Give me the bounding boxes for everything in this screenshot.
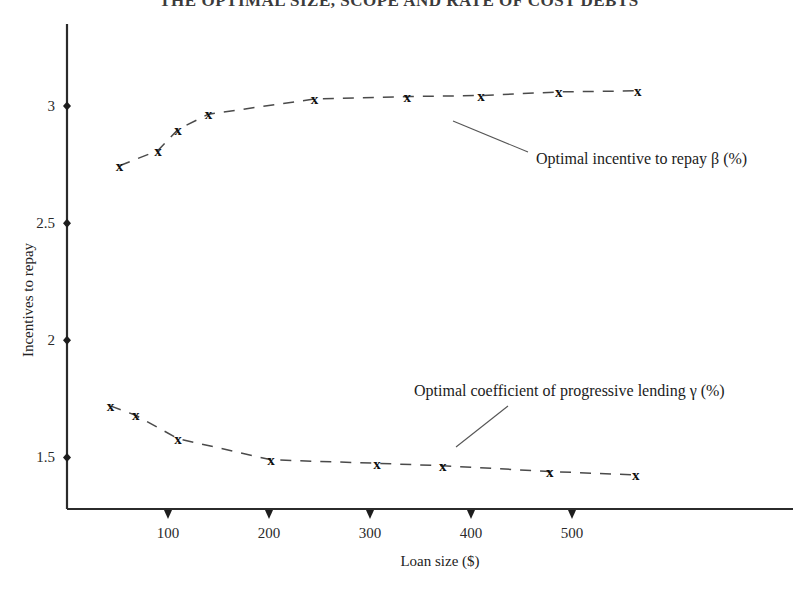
x-tick-mark bbox=[366, 510, 374, 519]
y-tick-label: 2.5 bbox=[36, 215, 55, 231]
data-point-marker: x bbox=[107, 398, 115, 414]
data-series-layer: xxxxxxxxxxxxxxxxx bbox=[107, 83, 642, 483]
data-point-marker: x bbox=[555, 84, 563, 100]
x-tick-mark bbox=[568, 510, 576, 519]
x-tick-mark bbox=[164, 510, 172, 519]
y-tick-mark bbox=[63, 453, 71, 462]
x-tick-label: 400 bbox=[460, 525, 483, 541]
data-point-marker: x bbox=[267, 452, 275, 468]
data-point-marker: x bbox=[439, 458, 447, 474]
x-axis-title: Loan size ($) bbox=[400, 553, 479, 570]
data-point-marker: x bbox=[116, 158, 124, 174]
y-tick-label: 2 bbox=[48, 332, 56, 348]
chart-plot-area: 100200300400500 1.522.53 Loan size ($) I… bbox=[0, 0, 798, 593]
data-point-marker: x bbox=[373, 456, 381, 472]
annotation-layer: Optimal incentive to repay β (%)Optimal … bbox=[414, 121, 747, 447]
data-point-marker: x bbox=[477, 88, 485, 104]
series-annotation-label: Optimal coefficient of progressive lendi… bbox=[414, 382, 725, 400]
data-point-marker: x bbox=[634, 83, 642, 99]
x-tick-mark bbox=[467, 510, 475, 519]
data-point-marker: x bbox=[132, 407, 140, 423]
y-tick-label: 3 bbox=[48, 98, 56, 114]
y-tick-mark bbox=[63, 102, 71, 111]
x-tick-label: 300 bbox=[359, 525, 382, 541]
y-axis-title: Incentives to repay bbox=[20, 242, 36, 357]
data-point-marker: x bbox=[404, 89, 412, 105]
data-point-marker: x bbox=[632, 467, 640, 483]
annotation-leader-line bbox=[453, 121, 528, 152]
y-tick-label: 1.5 bbox=[36, 449, 55, 465]
x-axis-ticks: 100200300400500 bbox=[157, 510, 584, 541]
annotation-leader-line bbox=[456, 406, 508, 447]
y-tick-mark bbox=[63, 219, 71, 228]
data-series: xxxxxxxx bbox=[107, 398, 640, 483]
data-point-marker: x bbox=[311, 91, 319, 107]
data-point-marker: x bbox=[174, 431, 182, 447]
x-tick-mark bbox=[265, 510, 273, 519]
y-axis-ticks: 1.522.53 bbox=[36, 98, 71, 465]
y-tick-mark bbox=[63, 336, 71, 345]
data-point-marker: x bbox=[174, 122, 182, 138]
data-point-marker: x bbox=[154, 143, 162, 159]
x-tick-label: 200 bbox=[258, 525, 281, 541]
data-point-marker: x bbox=[546, 464, 554, 480]
chart-figure: THE OPTIMAL SIZE, SCOPE AND RATE OF COST… bbox=[0, 0, 798, 593]
series-annotation-label: Optimal incentive to repay β (%) bbox=[536, 150, 747, 168]
data-point-marker: x bbox=[205, 106, 213, 122]
x-tick-label: 100 bbox=[157, 525, 180, 541]
x-tick-label: 500 bbox=[561, 525, 584, 541]
